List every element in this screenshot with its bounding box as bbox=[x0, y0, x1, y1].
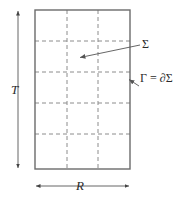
interior-region-label: Σ bbox=[142, 38, 149, 50]
sigma-leader-arrow bbox=[80, 45, 140, 58]
height-dimension-label: T bbox=[11, 83, 18, 96]
diagram-svg bbox=[0, 0, 189, 199]
grid-horizontal-lines bbox=[35, 41, 130, 134]
boundary-region-label: Γ = ∂Σ bbox=[140, 72, 173, 84]
width-dimension-label: R bbox=[76, 179, 84, 192]
domain-rectangle bbox=[35, 10, 130, 169]
grid-vertical-lines bbox=[67, 10, 98, 169]
figure-canvas: T R Σ Γ = ∂Σ bbox=[0, 0, 189, 199]
